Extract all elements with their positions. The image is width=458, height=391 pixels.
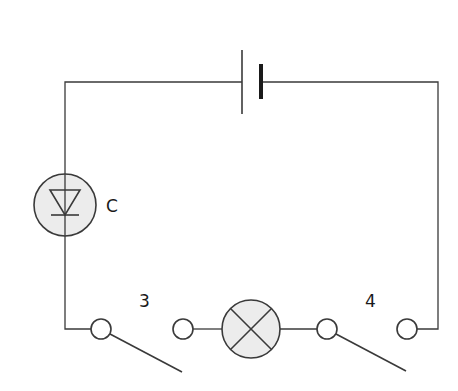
switch-3-terminal-right bbox=[173, 319, 193, 339]
switch-4-terminal-left bbox=[317, 319, 337, 339]
circuit-diagram: C 3 4 bbox=[0, 0, 458, 391]
led-icon bbox=[34, 174, 96, 236]
lamp-icon bbox=[222, 300, 280, 358]
switch-3-lever bbox=[110, 334, 182, 372]
switch-4-label: 4 bbox=[365, 291, 376, 311]
switch-4-lever bbox=[336, 334, 406, 371]
switch-3-icon bbox=[91, 319, 193, 372]
led-label: C bbox=[106, 196, 118, 216]
battery-icon bbox=[242, 50, 261, 114]
wire-top-right bbox=[261, 82, 438, 329]
switch-3-terminal-left bbox=[91, 319, 111, 339]
wire-led-to-switch3 bbox=[65, 236, 91, 329]
wires bbox=[65, 82, 438, 329]
switch-4-icon bbox=[317, 319, 417, 371]
switch-4-terminal-right bbox=[397, 319, 417, 339]
wire-top-left bbox=[65, 82, 242, 174]
switch-3-label: 3 bbox=[139, 291, 150, 311]
